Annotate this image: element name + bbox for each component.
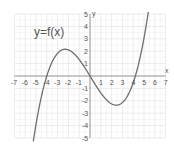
x-tick-label: -2 xyxy=(65,79,71,86)
x-tick-label: -5 xyxy=(33,79,39,86)
x-axis-label: x xyxy=(165,67,169,74)
x-tick-label: -3 xyxy=(54,79,60,86)
x-tick-label: -4 xyxy=(43,79,49,86)
x-tick-label: 7 xyxy=(164,79,168,86)
x-tick-label: 1 xyxy=(99,79,103,86)
chart-title: y=f(x) xyxy=(34,25,64,39)
x-tick-label: 2 xyxy=(110,79,114,86)
y-tick-label: -1 xyxy=(82,85,88,92)
x-tick-label: -6 xyxy=(22,79,28,86)
y-tick-label: -3 xyxy=(82,110,88,117)
x-tick-label: 3 xyxy=(121,79,125,86)
y-tick-label: -4 xyxy=(82,122,88,129)
x-tick-label: 5 xyxy=(142,79,146,86)
y-tick-label: 2 xyxy=(84,48,88,55)
x-tick-label: -7 xyxy=(11,79,17,86)
y-tick-label: 4 xyxy=(84,23,88,30)
y-tick-label: -5 xyxy=(82,135,88,142)
y-tick-label: -2 xyxy=(82,97,88,104)
function-graph: -7-6-5-4-3-2-11234567 54321-1-2-3-4-5 y=… xyxy=(0,0,174,150)
y-tick-label: 3 xyxy=(84,35,88,42)
y-tick-label: 5 xyxy=(84,11,88,18)
x-tick-label: 6 xyxy=(153,79,157,86)
y-tick-label: 1 xyxy=(84,60,88,67)
x-tick-label: 4 xyxy=(131,79,135,86)
y-axis-label: y xyxy=(92,10,96,18)
